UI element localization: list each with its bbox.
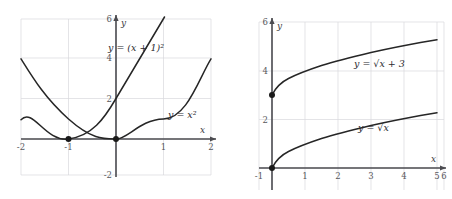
figure-container: x y -2 -1 1 2 6 4 2 -2 y = (x + 1)² y = … <box>0 0 452 199</box>
x-tick-label: 2 <box>335 171 340 181</box>
x-tick-label: 1 <box>161 142 166 152</box>
y-tick-label: 2 <box>107 94 112 104</box>
y-axis-label: y <box>120 18 127 28</box>
x-axis-label: x <box>431 154 436 164</box>
curve-base-sqrt <box>272 113 437 168</box>
point-marker <box>113 136 119 142</box>
y-tick-label: 4 <box>263 66 268 76</box>
axes <box>21 15 216 177</box>
vertical-gridlines <box>259 22 444 190</box>
point-marker <box>269 92 275 98</box>
x-tick-label: 4 <box>401 171 406 181</box>
parabolas-panel: x y -2 -1 1 2 6 4 2 -2 y = (x + 1)² y = … <box>0 0 226 199</box>
curve-label-shifted: y = (x + 1)² <box>107 42 164 53</box>
y-axis-label: y <box>276 21 283 31</box>
y-tick-label: 2 <box>263 115 268 125</box>
curve-shifted-parabola <box>21 17 165 139</box>
x-axis-label: x <box>200 125 205 135</box>
curve-label-base: y = √x <box>357 122 389 133</box>
y-tick-label: -2 <box>104 170 112 180</box>
x-tick-label: 6 <box>441 171 446 181</box>
point-marker <box>269 165 275 171</box>
x-tick-label: 3 <box>368 171 373 181</box>
square-root-panel: x y -1 1 2 3 4 5 6 6 4 2 y = √x + 3 y = … <box>226 0 452 199</box>
x-tick-label: -1 <box>64 142 72 152</box>
x-tick-label: 2 <box>208 142 213 152</box>
curve-label-shifted: y = √x + 3 <box>353 58 405 69</box>
x-tick-label: -1 <box>255 171 263 181</box>
curve-label-base: y = x² <box>167 109 197 120</box>
x-tick-label: -2 <box>17 142 25 152</box>
y-tick-label: 6 <box>263 17 268 27</box>
x-tick-label: 5 <box>434 171 439 181</box>
y-tick-label: 6 <box>107 14 112 24</box>
y-tick-label: 4 <box>107 53 112 63</box>
x-tick-label: 1 <box>302 171 307 181</box>
